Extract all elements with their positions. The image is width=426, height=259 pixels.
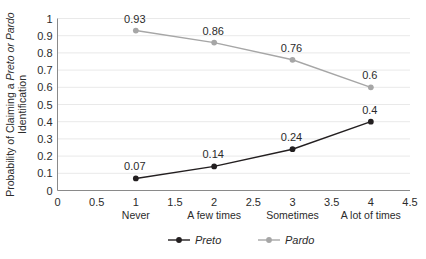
y-axis-title-line2: Identification: [16, 75, 28, 134]
y-tick-label: 1: [46, 13, 52, 25]
x-category-label: Never: [122, 209, 151, 221]
x-tick-label: 4: [368, 196, 374, 208]
y-axis-title-line1: Probability of Claiming a Preto or Pardo: [4, 12, 16, 197]
y-tick-label: 0.7: [37, 64, 52, 76]
y-tick-label: 0.9: [37, 30, 52, 42]
x-tick-label: 2.5: [246, 196, 261, 208]
series-line-preto: [136, 122, 371, 179]
data-point-label: 0.14: [202, 148, 223, 160]
y-tick-label: 0.3: [37, 133, 52, 145]
x-axis-tick-labels: 00.511.522.533.544.5: [54, 196, 417, 208]
data-point-label: 0.76: [281, 42, 302, 54]
data-point: [211, 40, 217, 46]
x-axis-category-labels: NeverA few timesSometimesA lot of times: [122, 209, 401, 221]
x-tick-label: 4.5: [402, 196, 417, 208]
chart-container: 00.10.20.30.40.50.60.70.80.91 00.511.522…: [0, 0, 426, 259]
y-tick-label: 0.5: [37, 99, 52, 111]
y-tick-label: 0.1: [37, 167, 52, 179]
x-tick-label: 1: [133, 196, 139, 208]
line-chart: 00.10.20.30.40.50.60.70.80.91 00.511.522…: [0, 0, 426, 259]
x-tick-label: 2: [211, 196, 217, 208]
y-tick-label: 0.2: [37, 150, 52, 162]
x-category-label: Sometimes: [266, 209, 319, 221]
data-point-label: 0.6: [362, 69, 377, 81]
y-tick-label: 0.8: [37, 47, 52, 59]
x-category-label: A lot of times: [341, 209, 401, 221]
legend-label-pardo: Pardo: [285, 234, 314, 246]
legend-label-preto: Preto: [195, 234, 221, 246]
y-tick-label: 0: [46, 185, 52, 197]
x-tick-label: 0.5: [89, 196, 104, 208]
data-point: [290, 57, 296, 63]
y-axis-title: Probability of Claiming a Preto or Pardo…: [4, 12, 28, 197]
chart-legend: PretoPardo: [168, 234, 314, 246]
data-point-label: 0.24: [281, 131, 302, 143]
figure-caption: [0, 251, 426, 259]
data-point: [368, 119, 374, 125]
y-tick-label: 0.4: [37, 116, 52, 128]
data-point: [211, 164, 217, 170]
data-point-label: 0.07: [124, 160, 145, 172]
x-tick-label: 1.5: [167, 196, 182, 208]
y-axis-tick-labels: 00.10.20.30.40.50.60.70.80.91: [37, 13, 52, 197]
data-point-labels: 0.070.140.240.40.930.860.760.6: [124, 13, 377, 173]
y-tick-label: 0.6: [37, 81, 52, 93]
x-tick-label: 3.5: [324, 196, 339, 208]
gridlines: [58, 19, 411, 174]
data-point: [290, 146, 296, 152]
legend-swatch-marker: [266, 237, 272, 243]
x-category-label: A few times: [187, 209, 241, 221]
data-point: [133, 28, 139, 34]
series-line-pardo: [136, 31, 371, 88]
data-point-label: 0.86: [202, 25, 223, 37]
data-point-label: 0.4: [362, 104, 377, 116]
data-point-label: 0.93: [124, 13, 145, 25]
x-tick-label: 3: [289, 196, 295, 208]
legend-swatch-marker: [176, 237, 182, 243]
data-point: [133, 176, 139, 182]
x-tick-label: 0: [54, 196, 60, 208]
data-point: [368, 84, 374, 90]
